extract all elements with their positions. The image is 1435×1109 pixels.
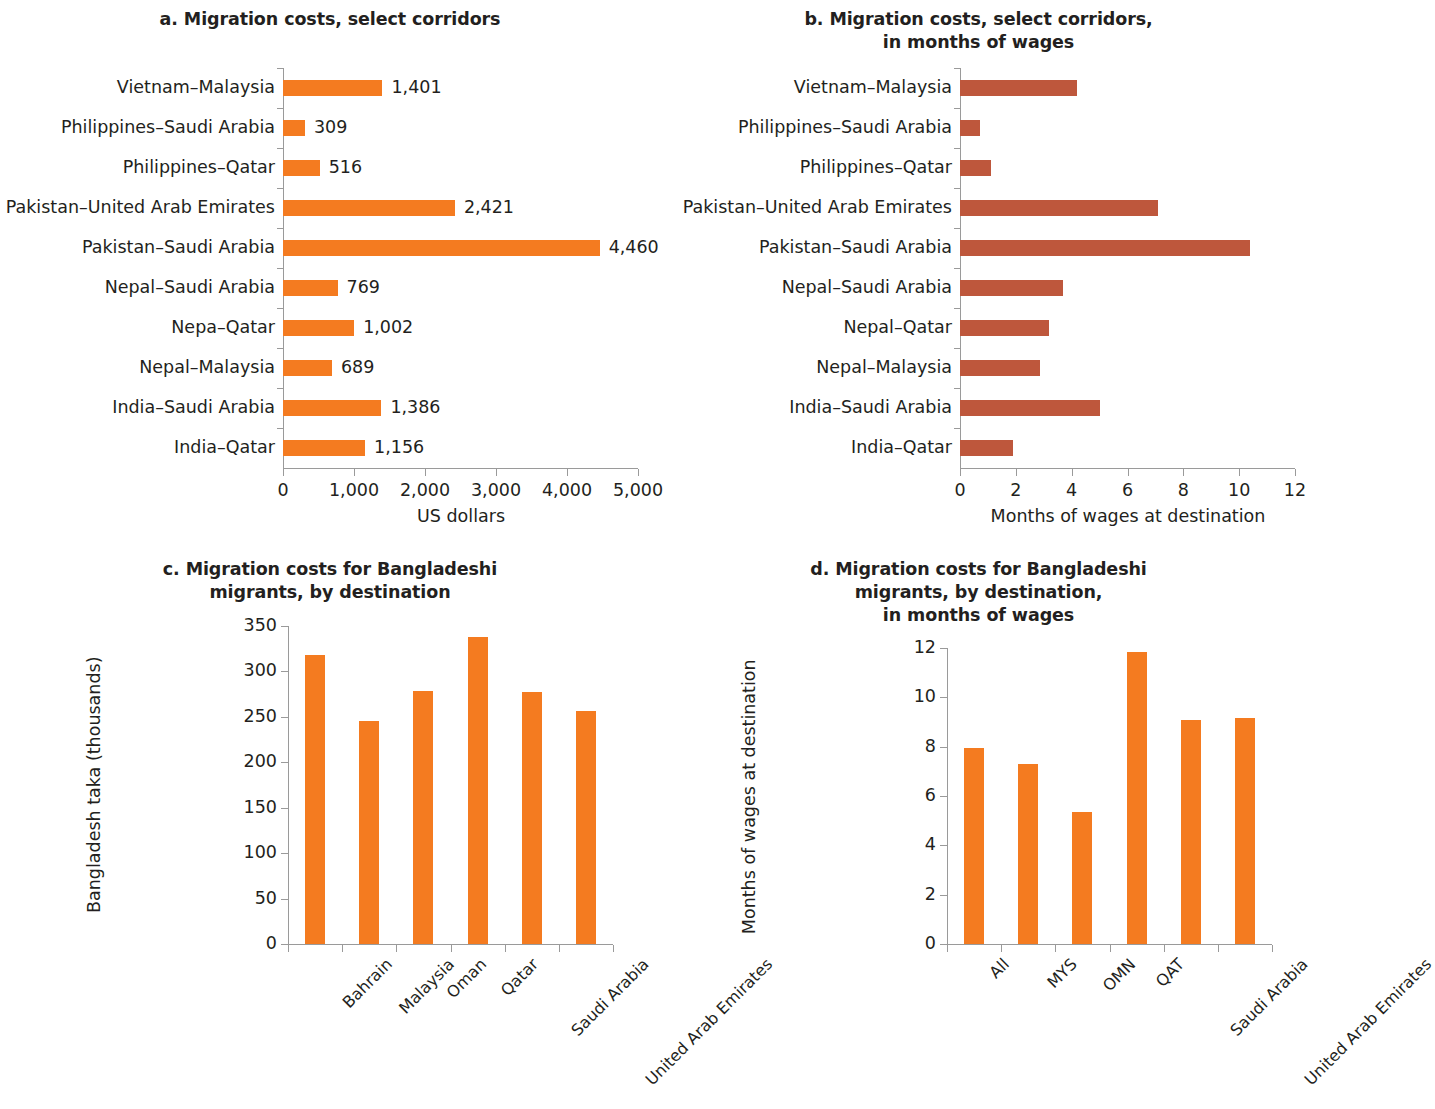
x-axis-tick xyxy=(1128,469,1129,476)
y-axis-tick-label: 8 xyxy=(925,738,936,756)
bar[interactable] xyxy=(283,200,455,216)
y-axis-tick xyxy=(281,899,288,900)
bar[interactable] xyxy=(960,320,1049,336)
panel-a-title: a. Migration costs, select corridors xyxy=(0,8,660,31)
bar[interactable] xyxy=(283,280,338,296)
bar[interactable] xyxy=(1235,718,1255,944)
x-axis-spine xyxy=(283,468,638,469)
x-axis-tick xyxy=(354,469,355,476)
bar[interactable] xyxy=(522,692,542,944)
bar[interactable] xyxy=(359,721,379,945)
bar-row: Vietnam–Malaysia1,401 xyxy=(283,68,638,108)
panel-c-title-line2: migrants, by destination xyxy=(209,582,450,602)
y-axis-tick xyxy=(277,228,283,229)
bar[interactable] xyxy=(283,320,354,336)
bar[interactable] xyxy=(283,120,305,136)
bar[interactable] xyxy=(576,711,596,944)
bar[interactable] xyxy=(960,80,1077,96)
bar[interactable] xyxy=(1127,652,1147,944)
x-axis-tick xyxy=(1016,469,1017,476)
bar[interactable] xyxy=(283,160,320,176)
y-axis-tick xyxy=(277,428,283,429)
bar[interactable] xyxy=(964,748,984,944)
y-axis-tick xyxy=(940,845,947,846)
y-axis-tick xyxy=(940,895,947,896)
bar[interactable] xyxy=(283,440,365,456)
panel-b-title-line2: in months of wages xyxy=(883,32,1074,52)
bar[interactable] xyxy=(960,440,1013,456)
x-axis-tick xyxy=(559,945,560,952)
y-axis-tick-label: 4 xyxy=(925,837,936,855)
x-axis-tick xyxy=(1055,945,1056,952)
y-axis-tick xyxy=(954,188,960,189)
y-axis-tick-label: 150 xyxy=(244,799,277,817)
panel-c-title-line1: c. Migration costs for Bangladeshi xyxy=(163,559,497,579)
x-axis-tick xyxy=(947,945,948,952)
panel-d-title-line2: migrants, by destination, xyxy=(855,582,1103,602)
panel-b-title-line1: b. Migration costs, select corridors, xyxy=(804,9,1152,29)
bar[interactable] xyxy=(283,400,381,416)
bar[interactable] xyxy=(283,360,332,376)
y-axis-tick-label: 350 xyxy=(244,617,277,635)
bar-category-label: Philippines–Saudi Arabia xyxy=(738,119,952,137)
y-axis-tick xyxy=(954,108,960,109)
x-axis-tick xyxy=(451,945,452,952)
bar-value-label: 1,386 xyxy=(390,399,440,417)
y-axis-tick xyxy=(277,148,283,149)
bar[interactable] xyxy=(1018,764,1038,944)
bar-row: Philippines–Saudi Arabia309 xyxy=(283,108,638,148)
y-axis-tick xyxy=(281,671,288,672)
y-axis-tick xyxy=(281,626,288,627)
bar[interactable] xyxy=(960,280,1063,296)
x-axis-category-label: Saudi Arabia xyxy=(1227,956,1310,1039)
bar[interactable] xyxy=(960,200,1158,216)
x-axis-tick-label: 4,000 xyxy=(542,482,592,500)
bar[interactable] xyxy=(1072,812,1092,944)
bar-category-label: Nepa–Qatar xyxy=(171,319,275,337)
y-axis-tick xyxy=(940,648,947,649)
bar-category-label: Nepal–Saudi Arabia xyxy=(105,279,275,297)
bar-category-label: Pakistan–Saudi Arabia xyxy=(759,239,952,257)
bar[interactable] xyxy=(283,240,600,256)
panel-d-title: d. Migration costs for Bangladeshi migra… xyxy=(650,558,1307,626)
x-axis-tick xyxy=(1110,945,1111,952)
bar[interactable] xyxy=(283,80,382,96)
bar-row: Pakistan–United Arab Emirates xyxy=(960,188,1295,228)
bar-row: Nepal–Qatar xyxy=(960,308,1295,348)
panel-d-title-line1: d. Migration costs for Bangladeshi xyxy=(810,559,1146,579)
bar[interactable] xyxy=(960,240,1250,256)
x-axis-tick xyxy=(567,469,568,476)
bar-category-label: Vietnam–Malaysia xyxy=(117,79,275,97)
y-axis-tick xyxy=(954,68,960,69)
bar[interactable] xyxy=(305,655,325,944)
x-axis-tick xyxy=(396,945,397,952)
bar-category-label: Pakistan–United Arab Emirates xyxy=(683,199,952,217)
bar[interactable] xyxy=(960,120,980,136)
y-axis-tick-label: 6 xyxy=(925,787,936,805)
y-axis-tick xyxy=(277,348,283,349)
y-axis-tick-label: 50 xyxy=(255,890,277,908)
bar[interactable] xyxy=(960,400,1100,416)
bar-row: Nepal–Saudi Arabia xyxy=(960,268,1295,308)
bar[interactable] xyxy=(960,160,991,176)
x-axis-tick-label: 0 xyxy=(277,482,288,500)
x-axis-tick-label: 0 xyxy=(954,482,965,500)
y-axis-tick xyxy=(954,428,960,429)
bar[interactable] xyxy=(413,691,433,944)
bar[interactable] xyxy=(468,637,488,944)
bar-row: Pakistan–United Arab Emirates2,421 xyxy=(283,188,638,228)
x-axis-tick xyxy=(342,945,343,952)
bar-category-label: Nepal–Malaysia xyxy=(816,359,952,377)
y-axis-tick xyxy=(281,808,288,809)
x-axis-tick-label: 2 xyxy=(1010,482,1021,500)
bar[interactable] xyxy=(960,360,1040,376)
bar-row: India–Qatar1,156 xyxy=(283,428,638,468)
y-axis-spine xyxy=(947,648,948,944)
x-axis-category-label: OMN xyxy=(1101,956,1139,994)
bar-row: Pakistan–Saudi Arabia4,460 xyxy=(283,228,638,268)
bar-row: India–Saudi Arabia1,386 xyxy=(283,388,638,428)
x-axis-tick xyxy=(496,469,497,476)
bar[interactable] xyxy=(1181,720,1201,944)
y-axis-tick xyxy=(954,228,960,229)
